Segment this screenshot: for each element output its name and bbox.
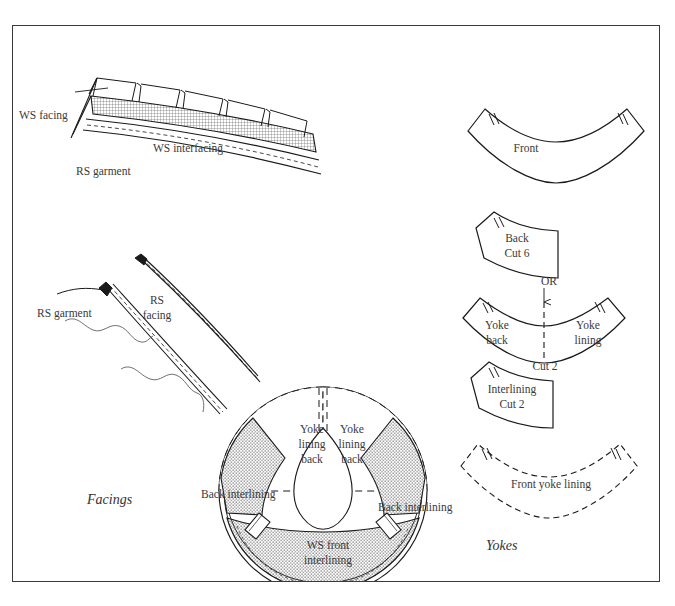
label-piece-interlining-cut: Cut 2 (476, 398, 548, 411)
rs-garment-edge (57, 288, 103, 294)
label-yoke-lining-back-right-1: Yoke (331, 423, 373, 436)
facing-inner-edge (73, 96, 91, 134)
label-ws-front-interlining-2: interlining (294, 554, 362, 567)
label-piece-back-cut: Cut 6 (488, 247, 546, 260)
label-yoke-lining-back-right-3: back (331, 453, 373, 466)
label-piece-yoke-back-2: back (470, 334, 524, 347)
label-rs-facing-line1: RS (137, 294, 177, 307)
thread-squiggle-upper (65, 319, 153, 342)
front-yoke-lining-notches (482, 448, 621, 460)
label-rs-garment-top: RS garment (76, 165, 131, 178)
page-border-frame: WS facing WS interfacing RS garment RS g… (12, 25, 660, 582)
label-piece-yoke-cut: Cut 2 (518, 360, 572, 373)
label-back-interlining-left: Back interlining (201, 488, 275, 501)
label-yoke-lining-back-right-2: lining (331, 438, 373, 451)
label-piece-yoke-back-1: Yoke (470, 319, 524, 332)
label-ws-interfacing: WS interfacing (153, 142, 223, 155)
label-piece-yoke-lining-2: lining (561, 334, 615, 347)
thread-squiggle-lower (121, 367, 204, 412)
clipped-facing-figure (71, 78, 321, 174)
label-back-interlining-right: Back interlining (378, 501, 452, 514)
label-piece-interlining: Interlining (476, 383, 548, 396)
label-piece-back: Back (488, 232, 546, 245)
front-notches (489, 113, 628, 125)
label-piece-yoke-lining-1: Yoke (561, 319, 615, 332)
label-piece-front-yoke-lining: Front yoke lining (491, 478, 611, 491)
facing-seam-point (99, 282, 112, 296)
understitched-facing-figure (57, 254, 260, 414)
label-yoke-lining-back-left-1: Yoke (291, 423, 333, 436)
label-ws-facing: WS facing (19, 109, 68, 122)
label-or-connector: OR (534, 275, 564, 288)
diagram-page: WS facing WS interfacing RS garment RS g… (0, 0, 675, 606)
label-piece-front: Front (496, 142, 556, 155)
label-yoke-lining-back-left-3: back (291, 453, 333, 466)
label-rs-garment-mid: RS garment (37, 307, 92, 320)
label-yoke-lining-back-left-2: lining (291, 438, 333, 451)
label-rs-facing-line2: facing (133, 309, 181, 322)
caption-yokes: Yokes (486, 538, 517, 554)
pattern-front-shape (468, 109, 644, 183)
caption-facings: Facings (87, 492, 132, 508)
label-ws-front-interlining-1: WS front (298, 539, 358, 552)
